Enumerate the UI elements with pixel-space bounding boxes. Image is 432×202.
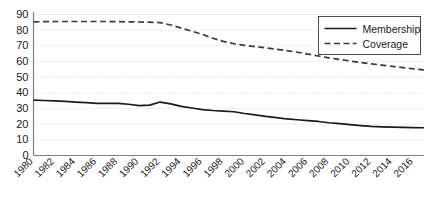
series-line-membership xyxy=(34,100,425,128)
legend: MembershipCoverage xyxy=(319,17,421,55)
x-tick-label: 2002 xyxy=(244,155,268,179)
x-tick-label: 2010 xyxy=(328,155,352,179)
y-tick-label: 20 xyxy=(16,118,28,130)
y-tick-labels: 0102030405060708090 xyxy=(16,8,28,161)
chart-canvas: 0102030405060708090 19801982198419861988… xyxy=(0,0,432,202)
y-tick-label: 70 xyxy=(16,39,28,51)
x-tick-label: 1996 xyxy=(180,155,204,179)
y-tick-label: 80 xyxy=(16,24,28,36)
x-tick-label: 1982 xyxy=(33,155,57,179)
y-tick-label: 30 xyxy=(16,102,28,114)
x-tick-label: 1998 xyxy=(201,155,225,179)
y-tick-label: 90 xyxy=(16,8,28,20)
y-tick-label: 60 xyxy=(16,55,28,67)
x-tick-label: 1988 xyxy=(96,155,120,179)
y-tick-label: 40 xyxy=(16,86,28,98)
x-tick-label: 1986 xyxy=(75,155,99,179)
x-tick-label: 2014 xyxy=(370,155,394,179)
legend-label-membership: Membership xyxy=(363,23,421,35)
x-tick-label: 2000 xyxy=(222,155,246,179)
legend-label-coverage: Coverage xyxy=(363,38,409,50)
line-chart: 0102030405060708090 19801982198419861988… xyxy=(0,0,432,202)
y-tick-label: 10 xyxy=(16,133,28,145)
y-tick-label: 50 xyxy=(16,71,28,83)
x-tick-label: 1994 xyxy=(159,155,183,179)
x-tick-label: 1990 xyxy=(117,155,141,179)
x-tick-label: 1992 xyxy=(138,155,162,179)
x-tick-label: 1980 xyxy=(11,155,35,179)
x-tick-label: 2008 xyxy=(307,155,331,179)
x-tick-label: 1984 xyxy=(54,155,78,179)
x-tick-label: 2016 xyxy=(391,155,415,179)
x-tick-label: 2004 xyxy=(265,155,289,179)
x-tick-labels: 1980198219841986198819901992199419961998… xyxy=(11,155,415,179)
x-tick-label: 2006 xyxy=(286,155,310,179)
x-tick-label: 2012 xyxy=(349,155,373,179)
